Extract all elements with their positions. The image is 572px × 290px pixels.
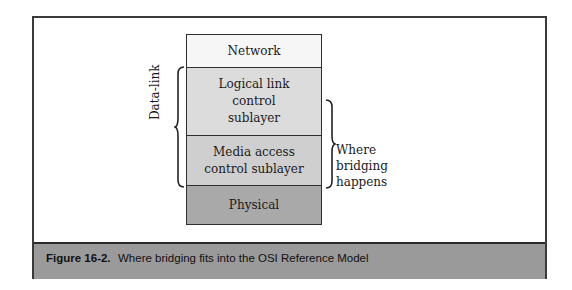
figure-number: Figure 16-2.: [46, 252, 118, 264]
figure-caption-text: Where bridging fits into the OSI Referen…: [118, 252, 369, 264]
where-bridging-label: Where bridging happens: [336, 142, 426, 190]
osi-layer-stack: Network Logical link control sublayer Me…: [186, 34, 322, 225]
layer-network: Network: [186, 34, 322, 68]
layer-mac: Media access control sublayer: [186, 136, 322, 186]
layer-physical-label: Physical: [229, 197, 279, 214]
left-brace-icon: [174, 66, 186, 188]
layer-network-label: Network: [228, 43, 281, 60]
layer-mac-label: Media access control sublayer: [199, 144, 309, 178]
figure-caption: Figure 16-2.Where bridging fits into the…: [46, 252, 369, 264]
layer-llc-label: Logical link control sublayer: [209, 76, 299, 127]
caption-band: Figure 16-2.Where bridging fits into the…: [34, 242, 545, 279]
layer-physical: Physical: [186, 186, 322, 225]
data-link-label: Data-link: [148, 66, 162, 120]
layer-llc: Logical link control sublayer: [186, 68, 322, 136]
right-brace-icon: [324, 99, 336, 189]
